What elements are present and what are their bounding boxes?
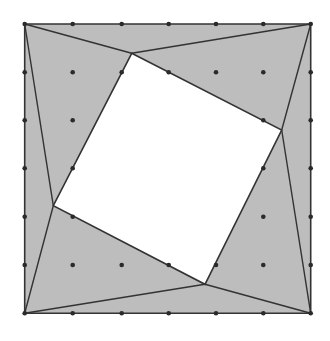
grid-dot (22, 311, 27, 316)
grid-dot (119, 22, 124, 27)
grid-dot (22, 118, 27, 123)
grid-dot (261, 214, 266, 219)
grid-dot (308, 263, 313, 268)
grid-dot (261, 311, 266, 316)
grid-dot (119, 263, 124, 268)
grid-dot (308, 214, 313, 219)
grid-dot (308, 166, 313, 171)
tilted-square-diagram (0, 0, 330, 341)
grid-dot (308, 22, 313, 27)
grid-dot (166, 22, 171, 27)
grid-dot (261, 118, 266, 123)
grid-dot (166, 70, 171, 75)
grid-dot (214, 311, 219, 316)
grid-dot (308, 311, 313, 316)
grid-dot (119, 70, 124, 75)
grid-dot (70, 263, 75, 268)
grid-dot (22, 263, 27, 268)
grid-dot (308, 70, 313, 75)
grid-dot (70, 166, 75, 171)
grid-dot (70, 311, 75, 316)
grid-dot (261, 166, 266, 171)
grid-dot (261, 22, 266, 27)
grid-dot (70, 214, 75, 219)
grid-dot (22, 22, 27, 27)
grid-dot (119, 311, 124, 316)
grid-dot (22, 166, 27, 171)
grid-dot (261, 263, 266, 268)
grid-dot (70, 118, 75, 123)
grid-dot (166, 311, 171, 316)
grid-dot (308, 118, 313, 123)
grid-dot (166, 263, 171, 268)
grid-dot (261, 70, 266, 75)
grid-dot (214, 70, 219, 75)
grid-dot (22, 70, 27, 75)
grid-dot (70, 22, 75, 27)
grid-dot (22, 214, 27, 219)
grid-dot (214, 22, 219, 27)
grid-dot (70, 70, 75, 75)
grid-dot (214, 263, 219, 268)
